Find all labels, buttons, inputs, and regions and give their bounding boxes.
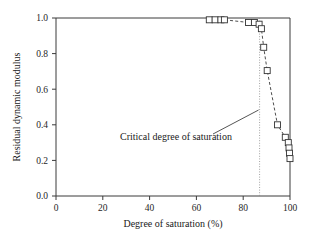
x-tick-label: 20 (98, 203, 108, 213)
y-tick-label: 0.6 (36, 85, 48, 95)
y-tick-label: 0.8 (36, 49, 48, 59)
x-tick-label: 40 (145, 203, 155, 213)
data-point (221, 17, 227, 23)
y-tick-label: 0.2 (36, 156, 48, 166)
data-point (264, 68, 270, 74)
data-point (275, 122, 281, 128)
data-point (261, 44, 267, 50)
y-tick-label: 0.0 (36, 191, 48, 201)
data-point (287, 156, 293, 162)
x-axis-tick-labels: 0 20 40 60 80 100 (54, 203, 298, 213)
x-axis-title: Degree of saturation (%) (123, 218, 222, 230)
chart-canvas: 0.0 0.2 0.4 0.6 0.8 1.0 0 20 40 60 80 10… (0, 0, 316, 236)
x-tick-label: 0 (54, 203, 59, 213)
y-tick-label: 1.0 (36, 13, 48, 23)
chart-figure: 0.0 0.2 0.4 0.6 0.8 1.0 0 20 40 60 80 10… (0, 0, 316, 236)
data-point (212, 17, 218, 23)
y-axis-tick-labels: 0.0 0.2 0.4 0.6 0.8 1.0 (36, 13, 48, 201)
plot-frame (56, 18, 290, 196)
y-axis-ticks (52, 18, 56, 196)
data-point (246, 20, 252, 26)
data-point (206, 17, 212, 23)
critical-saturation-annotation: Critical degree of saturation (120, 131, 232, 142)
y-axis-title: Residual dynamic modulus (11, 52, 22, 161)
x-tick-label: 100 (283, 203, 298, 213)
x-tick-label: 80 (238, 203, 248, 213)
x-axis-ticks (56, 196, 290, 200)
data-point (258, 26, 264, 32)
x-tick-label: 60 (192, 203, 202, 213)
y-tick-label: 0.4 (36, 120, 48, 130)
